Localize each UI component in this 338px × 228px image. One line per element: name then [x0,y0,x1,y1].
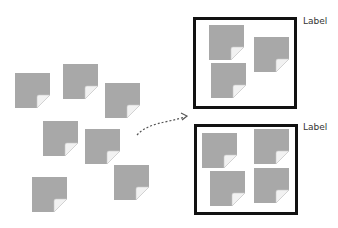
sticky-note-icon [32,177,67,212]
grouped-sticky-note-icon [209,25,244,60]
sticky-note-icon [15,73,50,108]
sticky-note-icon [63,64,98,99]
sticky-note-icon [105,83,140,118]
sticky-note-icon [114,165,149,200]
grouped-sticky-note-icon [210,171,245,206]
grouped-sticky-note-icon [254,37,289,72]
sticky-note-icon [43,121,78,156]
dashed-arrow-icon [130,105,200,140]
grouped-sticky-note-icon [254,168,289,203]
group-label-1: Label [303,16,327,26]
sticky-note-icon [85,129,120,164]
grouped-sticky-note-icon [254,129,289,164]
grouped-sticky-note-icon [202,133,237,168]
group-label-2: Label [303,122,327,132]
grouped-sticky-note-icon [211,63,246,98]
